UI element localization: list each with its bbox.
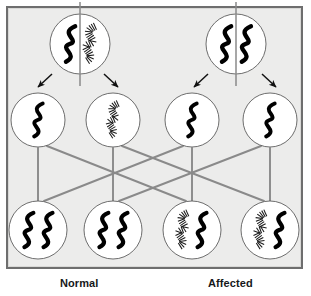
offspring-affected-b (241, 201, 299, 259)
gamete-affected-solid-a (165, 93, 219, 147)
fertilization-line-gamete-4-to-zygote-2 (119, 146, 261, 201)
cell-membrane (241, 201, 299, 259)
label-affected: Affected (208, 277, 253, 289)
Normal parent (50, 2, 110, 86)
arrow-normal-right-icon (104, 74, 118, 87)
arrow-normal-left-icon (38, 74, 52, 87)
label-normal: Normal (60, 277, 99, 289)
fertilization-line-gamete-2-to-zygote-4 (122, 146, 264, 201)
fertilization-line-gamete-1-to-zygote-3 (47, 146, 186, 201)
offspring-normal-a (9, 201, 67, 259)
offspring-normal-b (84, 201, 142, 259)
cell-membrane (163, 201, 221, 259)
cell-membrane (9, 201, 67, 259)
cell-membrane (86, 93, 140, 147)
Affected parent (206, 2, 266, 86)
cell-circles (9, 2, 299, 259)
inheritance-diagram (0, 0, 311, 296)
arrow-affected-left-icon (194, 74, 208, 87)
connection-lines (38, 146, 270, 201)
figure-root: Normal Affected (0, 0, 311, 296)
cell-membrane (84, 201, 142, 259)
gamete-affected-solid-b (243, 93, 297, 147)
offspring-affected-a (163, 201, 221, 259)
arrow-affected-right-icon (262, 74, 276, 87)
gamete-normal-solid (11, 93, 65, 147)
gamete-normal-hatched (86, 93, 140, 147)
meiosis-arrows (38, 74, 276, 87)
